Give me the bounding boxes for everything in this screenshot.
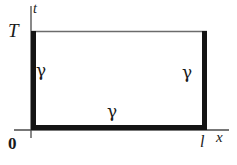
t-axis-label: t (33, 2, 37, 16)
figure-container: T t 0 l x γ γ γ (0, 0, 237, 165)
gamma-label-right: γ (182, 64, 192, 81)
t-max-tick-label: T (8, 21, 19, 40)
gamma-label-left: γ (36, 62, 46, 79)
gamma-label-bottom: γ (107, 103, 117, 120)
origin-label: 0 (8, 135, 17, 152)
x-axis-label: x (216, 130, 223, 145)
x-max-tick-label: l (200, 134, 204, 150)
